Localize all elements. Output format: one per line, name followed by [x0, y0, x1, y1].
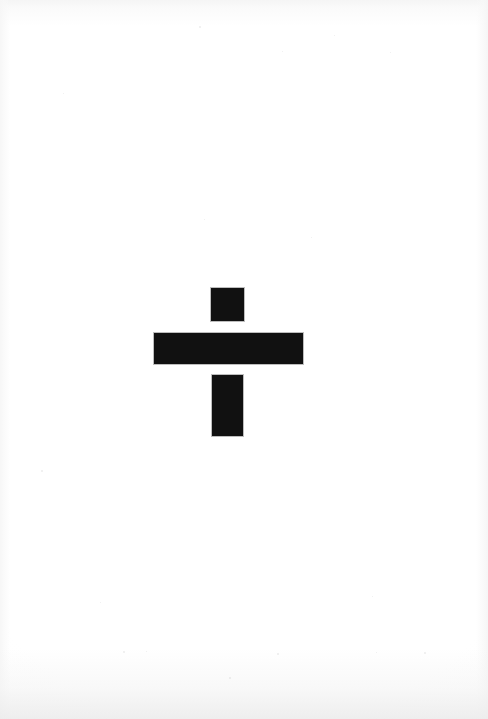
cruciform-figure: [0, 0, 488, 719]
crossbar-rect: [154, 333, 303, 364]
scanned-page: [0, 0, 488, 719]
stem-bottom-rect: [212, 375, 243, 436]
stem-top-square: [211, 288, 244, 321]
